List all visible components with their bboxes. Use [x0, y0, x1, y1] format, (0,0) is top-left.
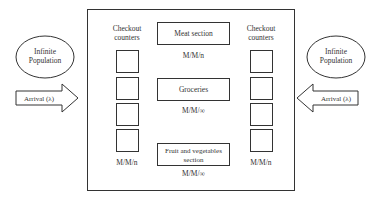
left-counter-1 [117, 51, 139, 73]
left-counters-model: M/M/n [116, 158, 138, 167]
meat-section-label: Meat section [174, 29, 213, 38]
meat-section: Meat section M/M/n [158, 23, 230, 61]
fruit-vegetables-label-line2: section [184, 156, 204, 164]
left-arrival-label: Arrival (λ) [24, 95, 55, 103]
left-population-line1: Infinite [34, 47, 57, 56]
right-arrival-label: Arrival (λ) [321, 95, 352, 103]
groceries-section: Groceries M/M/∞ [158, 79, 230, 116]
fruit-vegetables-model: M/M/∞ [182, 169, 205, 178]
fruit-vegetables-label-line1: Fruit and vegetables [165, 147, 222, 155]
groceries-model: M/M/∞ [182, 106, 205, 115]
queueing-diagram: Infinite Population Arrival (λ) Infinite… [0, 0, 372, 198]
left-counters-header-line1: Checkout [113, 24, 143, 33]
right-population-line2: Population [320, 56, 353, 65]
fruit-vegetables-section: Fruit and vegetables section M/M/∞ [158, 144, 230, 179]
right-counters-header-line2: counters [248, 33, 273, 42]
right-counter-2 [251, 78, 273, 100]
left-checkout-counters: Checkout counters M/M/n [113, 24, 143, 167]
left-counter-3 [117, 104, 139, 126]
right-counters-model: M/M/n [250, 158, 272, 167]
right-counters-header-line1: Checkout [247, 24, 277, 33]
right-arrival-arrow: Arrival (λ) [297, 84, 358, 112]
left-population-line2: Population [29, 56, 62, 65]
right-counter-3 [251, 104, 273, 126]
groceries-label: Groceries [179, 85, 208, 94]
left-counter-2 [117, 78, 139, 100]
left-counter-4 [117, 130, 139, 152]
left-arrival-arrow: Arrival (λ) [16, 84, 78, 112]
meat-section-model: M/M/n [183, 51, 205, 60]
left-counters-header-line2: counters [114, 33, 139, 42]
right-checkout-counters: Checkout counters M/M/n [247, 24, 277, 167]
right-counter-1 [251, 51, 273, 73]
left-infinite-population: Infinite Population [16, 36, 74, 78]
right-population-line1: Infinite [325, 47, 348, 56]
right-infinite-population: Infinite Population [307, 36, 365, 78]
right-counter-4 [251, 130, 273, 152]
